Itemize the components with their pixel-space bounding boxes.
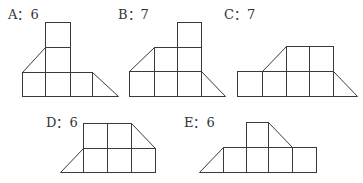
figure-e-cell [269, 148, 293, 173]
figure-a-cell [46, 23, 71, 48]
figure-d-shape [61, 124, 156, 173]
figure-c-slant [263, 47, 287, 72]
figure-a-cell [46, 73, 71, 97]
figure-c-shape [238, 47, 358, 97]
figure-d-cell [84, 149, 108, 173]
figure-b-cell [155, 72, 178, 97]
figure-a-cell [23, 73, 46, 97]
figure-e-slant-left [200, 148, 224, 173]
figure-c-cell [310, 72, 334, 97]
figure-b-cell [155, 48, 178, 72]
figure-e-cell [293, 148, 317, 173]
figure-d-cell [108, 124, 132, 149]
figures-canvas [0, 0, 363, 183]
figure-d-cell [108, 149, 132, 173]
figure-b-triangle [202, 72, 226, 97]
figure-a-cell [71, 73, 93, 97]
figure-c-cell [238, 72, 263, 97]
figure-a-cell [46, 48, 71, 73]
figure-c-cell [263, 72, 287, 97]
figure-a-shape [23, 23, 119, 97]
figure-c-triangle [334, 72, 358, 97]
figure-a-slant [23, 48, 46, 73]
figure-b-cell [178, 48, 202, 72]
figure-e-slant-top [269, 123, 293, 148]
figure-c-cell [310, 47, 334, 72]
figure-e-shape [200, 123, 317, 173]
figure-b-cell [178, 72, 202, 97]
figure-c-cell [287, 47, 310, 72]
figure-d-cell [84, 124, 108, 149]
figure-c-cell [287, 72, 310, 97]
figure-a-triangle [93, 73, 119, 97]
figure-d-slant-top [132, 124, 156, 149]
figure-e-cell [224, 148, 247, 173]
figure-b-cell [178, 23, 202, 48]
figure-b-shape [130, 23, 226, 97]
figure-d-cell [132, 149, 156, 173]
figure-b-slant [130, 48, 155, 72]
figure-b-cell [130, 72, 155, 97]
figure-e-cell [247, 123, 269, 148]
figure-d-slant-left [61, 149, 84, 173]
figure-e-cell [247, 148, 269, 173]
